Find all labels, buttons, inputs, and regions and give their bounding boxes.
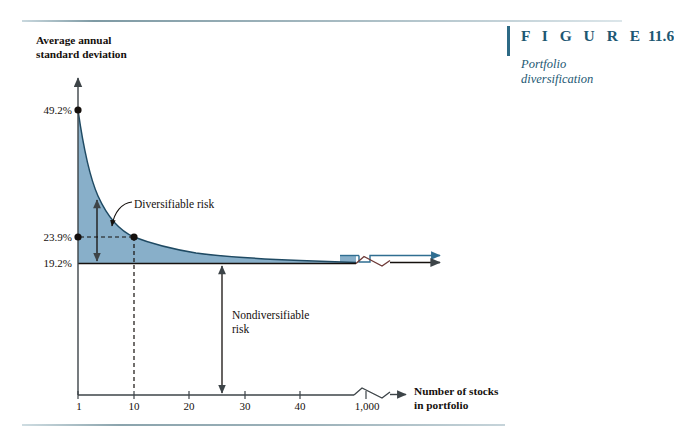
figure-number: 11.6 [648,27,674,44]
curve-fill-region [78,110,356,264]
y-axis-title: Average annual standard deviation [36,34,127,61]
data-point-49 [74,106,81,113]
asymptote-break-zigzag [356,257,390,267]
annotation-nondiversifiable-line2: risk [232,323,309,337]
y-axis-title-line1: Average annual [36,34,127,48]
data-point-239-axis [74,233,81,240]
x-tick-label-40: 40 [290,400,310,412]
x-axis-title-line1: Number of stocks [414,385,499,399]
annotation-nondiversifiable-risk: Nondiversifiable risk [232,309,309,336]
y-tick-label-239: 23.9% [28,231,72,243]
x-axis-break-zigzag [354,388,390,398]
y-axis-title-line2: standard deviation [36,48,127,62]
x-tick-label-1: 1 [71,400,87,412]
x-tick-label-1000: 1,000 [351,400,383,412]
y-tick-label-192: 19.2% [28,257,72,269]
data-point-239 [130,233,137,240]
x-tick-label-30: 30 [235,400,255,412]
x-axis-title-line2: in portfolio [414,399,499,413]
x-axis-title: Number of stocks in portfolio [414,385,499,412]
annotation-nondiversifiable-line1: Nondiversifiable [232,309,309,323]
x-tick-label-10: 10 [124,400,144,412]
x-tick-label-20: 20 [179,400,199,412]
y-tick-label-49: 49.2% [28,104,72,116]
annotation-diversifiable-risk: Diversifiable risk [134,198,214,212]
